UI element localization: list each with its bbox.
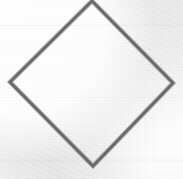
shape-layer	[0, 0, 183, 179]
image-canvas	[0, 0, 183, 179]
diamond-outline-halo	[10, 1, 173, 166]
diamond-outline	[10, 1, 173, 166]
diamond-svg	[0, 0, 183, 179]
